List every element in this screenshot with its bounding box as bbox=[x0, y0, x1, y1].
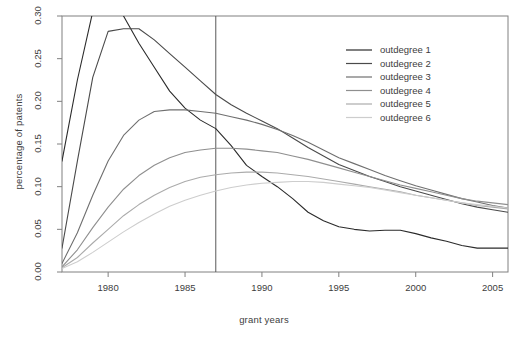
legend-entry-label: outdegree 2 bbox=[380, 58, 431, 69]
series-line-outdegree-4 bbox=[62, 148, 508, 267]
y-axis-title: percentage of patents bbox=[13, 72, 24, 212]
legend-entry-label: outdegree 4 bbox=[380, 85, 431, 96]
x-tick-label: 1990 bbox=[242, 282, 282, 293]
legend-entry-label: outdegree 5 bbox=[380, 98, 431, 109]
series-line-outdegree-2 bbox=[62, 29, 508, 248]
x-axis-title: grant years bbox=[0, 314, 528, 325]
series-line-outdegree-5 bbox=[62, 172, 508, 268]
plot-frame bbox=[62, 16, 508, 272]
y-tick-label: 0.05 bbox=[32, 212, 43, 246]
legend-line-swatches bbox=[346, 50, 372, 118]
x-tick-label: 1995 bbox=[319, 282, 359, 293]
plot-frame-rect bbox=[62, 16, 508, 272]
legend-entry-label: outdegree 1 bbox=[380, 44, 431, 55]
y-tick-label: 0.30 bbox=[32, 0, 43, 33]
y-tick-label: 0.15 bbox=[32, 127, 43, 161]
series-line-outdegree-1 bbox=[62, 0, 508, 248]
y-tick-label: 0.00 bbox=[32, 255, 43, 289]
series-line-outdegree-6 bbox=[62, 182, 508, 269]
chart-figure: grant years percentage of patents 0.000.… bbox=[0, 0, 528, 339]
x-axis-tick-marks bbox=[108, 272, 492, 277]
y-tick-label: 0.10 bbox=[32, 169, 43, 203]
legend-entry-label: outdegree 3 bbox=[380, 71, 431, 82]
legend-entry-label: outdegree 6 bbox=[380, 112, 431, 123]
x-tick-label: 1980 bbox=[88, 282, 128, 293]
y-tick-label: 0.20 bbox=[32, 84, 43, 118]
y-axis-tick-marks bbox=[57, 16, 62, 272]
data-series-layer bbox=[62, 0, 508, 269]
x-tick-label: 2000 bbox=[396, 282, 436, 293]
x-tick-label: 1985 bbox=[165, 282, 205, 293]
y-tick-label: 0.25 bbox=[32, 41, 43, 75]
x-tick-label: 2005 bbox=[473, 282, 513, 293]
